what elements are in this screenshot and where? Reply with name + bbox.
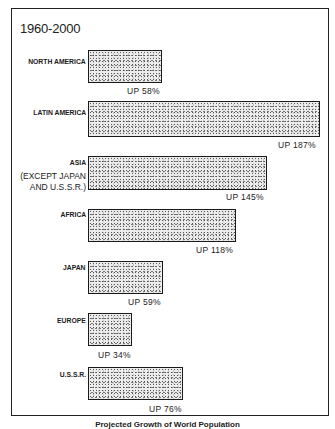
figure-caption: Projected Growth of World Population [0,420,335,429]
label-north-america: NORTH AMERICA [28,57,86,66]
bar-asia [88,156,267,190]
bar-europe [88,313,132,346]
value-north-america: UP 58% [127,86,160,96]
bar-ussr [88,367,183,400]
label-asia-sub2: AND U.S.S.R.) [30,181,86,193]
bar-japan [88,261,163,294]
label-ussr: U.S.S.R. [60,370,86,379]
label-latin-america: LATIN AMERICA [33,108,86,117]
value-latin-america: UP 187% [278,140,316,150]
value-africa: UP 118% [196,245,233,255]
value-asia: UP 145% [226,192,264,202]
chart-period-title: 1960-2000 [20,21,80,36]
value-europe: UP 34% [98,350,131,360]
value-japan: UP 59% [128,297,161,307]
value-ussr: UP 76% [149,404,182,414]
label-europe: EUROPE [57,316,86,325]
label-africa: AFRICA [60,210,86,219]
bar-north-america [88,50,162,83]
bar-latin-america [88,101,320,137]
label-asia: ASIA [70,158,86,167]
label-japan: JAPAN [63,263,86,272]
bar-africa [88,209,236,242]
